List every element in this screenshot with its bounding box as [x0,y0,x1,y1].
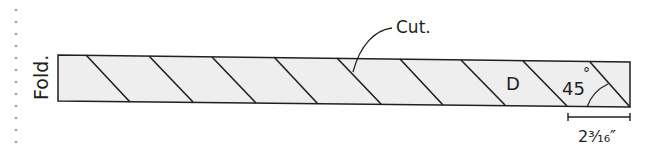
piece-label: D [506,73,520,94]
fold-dotted-line [15,9,18,144]
cut-label: Cut. [396,17,431,37]
fold-label: Fold. [30,55,52,100]
fabric-strip [58,55,630,107]
measurement-label: 2³⁄₁₆″ [578,127,616,146]
angle-label: 45 [562,78,585,99]
dimension-line [568,113,630,121]
bias-strip-diagram: Fold. Cut. D 45 ° 2³⁄₁₆″ [0,0,669,152]
degree-symbol: ° [583,65,590,81]
